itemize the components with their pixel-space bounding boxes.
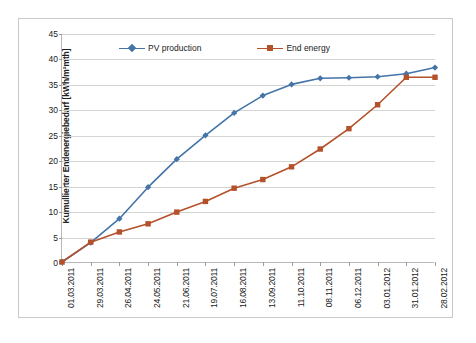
x-axis-tick-label: 06.12.2011 <box>353 268 363 308</box>
square-marker-icon <box>117 229 122 234</box>
page-canvas: Kumullierter Endenergiebedarf [kWh/m²mth… <box>0 0 476 343</box>
x-axis-tick-label: 11.10.2011 <box>296 268 306 307</box>
square-marker-icon <box>346 126 351 131</box>
y-axis-tick-label: 40 <box>49 54 58 64</box>
diamond-marker-icon <box>317 75 323 81</box>
plot-area: 051015202530354045 01.03.201129.03.20112… <box>61 34 434 263</box>
x-axis-tick-label: 13.09.2011 <box>267 268 277 308</box>
square-marker-icon <box>231 185 236 190</box>
square-marker-icon <box>145 221 150 226</box>
square-marker-icon <box>88 239 93 244</box>
square-marker-icon <box>203 199 208 204</box>
square-marker-icon <box>404 75 409 80</box>
y-axis-tick-label: 10 <box>49 207 58 217</box>
square-marker-icon <box>260 177 265 182</box>
square-marker-icon <box>432 75 437 80</box>
y-axis-tick-label: 0 <box>53 258 58 268</box>
chart-figure-frame: Kumullierter Endenergiebedarf [kWh/m²mth… <box>18 18 453 318</box>
y-axis-tick-label: 15 <box>49 182 58 192</box>
x-axis-tick-label: 21.06.2011 <box>181 268 191 308</box>
x-axis-tick-label: 08.11.2011 <box>324 268 334 307</box>
square-marker-icon <box>318 146 323 151</box>
x-axis-tick-label: 31.01.2012 <box>410 268 420 309</box>
diamond-marker-icon <box>346 75 352 81</box>
y-axis-tick-label: 5 <box>53 233 58 243</box>
page-margin-cutoff-text <box>460 262 474 340</box>
x-axis-tick-label: 01.03.2011 <box>66 268 76 308</box>
diamond-marker-icon <box>375 74 381 80</box>
x-axis-tick-label: 16.08.2011 <box>238 268 248 308</box>
y-axis-tick-label: 30 <box>49 105 58 115</box>
square-marker-icon <box>289 164 294 169</box>
square-marker-icon <box>174 209 179 214</box>
x-axis-tick-label: 29.03.2011 <box>95 268 105 308</box>
square-marker-icon <box>375 102 380 107</box>
square-marker-icon <box>59 259 64 264</box>
diamond-marker-icon <box>432 64 438 70</box>
x-axis-tick-mark <box>435 262 436 266</box>
y-axis-tick-label: 35 <box>49 80 58 90</box>
x-axis-tick-label: 26.04.2011 <box>123 268 133 308</box>
x-axis-tick-label: 28.02.2012 <box>439 268 449 309</box>
diamond-marker-icon <box>288 81 294 87</box>
y-axis-tick-label: 25 <box>49 131 58 141</box>
y-axis-tick-label: 45 <box>49 29 58 39</box>
y-axis-tick-label: 20 <box>49 156 58 166</box>
x-axis-tick-label: 24.05.2011 <box>152 268 162 308</box>
x-axis-tick-label: 03.01.2012 <box>382 268 392 309</box>
chart-series-svg <box>62 34 435 263</box>
x-axis-tick-label: 19.07.2011 <box>209 268 219 308</box>
